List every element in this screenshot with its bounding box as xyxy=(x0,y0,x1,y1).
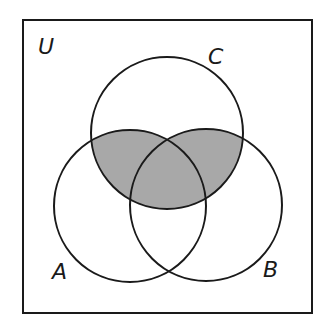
set-a-label: A xyxy=(52,261,67,283)
set-b-label: B xyxy=(263,259,278,281)
set-c-label: C xyxy=(208,46,223,68)
universe-label: U xyxy=(38,36,54,58)
